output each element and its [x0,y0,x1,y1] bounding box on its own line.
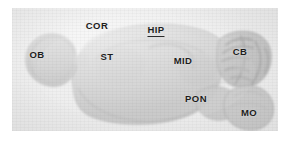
region-label-cb: CB [233,47,248,57]
region-label-ob: OB [29,50,44,60]
brain-section-figure: OB COR ST HIP MID CB PON MO [0,0,290,146]
region-label-st: ST [101,52,114,62]
brain-tissue-image [12,8,278,131]
region-label-mid: MID [174,56,193,66]
region-label-cor: COR [86,21,108,31]
brain-section-panel [12,8,278,131]
region-label-mo: MO [241,108,257,118]
region-label-hip: HIP [147,25,164,37]
region-label-pon: PON [185,94,207,104]
